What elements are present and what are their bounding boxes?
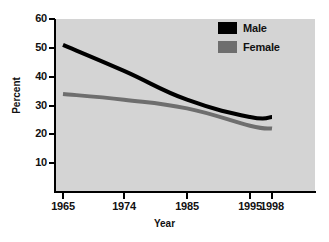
x-tick-mark (271, 193, 273, 199)
series-paths (63, 45, 272, 129)
y-tick-mark (49, 162, 55, 164)
y-tick-mark (49, 47, 55, 49)
x-tick-label: 1974 (102, 200, 146, 212)
legend-item-male: Male (218, 19, 280, 36)
x-tick-label: 1965 (41, 200, 85, 212)
legend-item-female: Female (218, 38, 280, 55)
x-tick-mark (123, 193, 125, 199)
y-tick-mark (49, 76, 55, 78)
y-tick-mark (49, 18, 55, 20)
legend-label: Male (243, 22, 267, 34)
series-line-female (63, 94, 272, 129)
x-axis-line (54, 191, 316, 193)
legend-label: Female (243, 41, 280, 53)
y-tick-label: 50 (7, 42, 47, 53)
x-tick-mark (62, 193, 64, 199)
y-tick-label: 20 (7, 128, 47, 139)
x-tick-mark (249, 193, 251, 199)
y-tick-label: 60 (7, 13, 47, 24)
y-tick-mark (49, 105, 55, 107)
x-axis-title: Year (0, 218, 329, 229)
y-axis-title: Percent (11, 66, 22, 126)
chart-legend: MaleFemale (218, 19, 280, 57)
y-tick-mark (49, 133, 55, 135)
x-tick-mark (186, 193, 188, 199)
x-tick-label: 1998 (250, 200, 294, 212)
x-tick-label: 1985 (165, 200, 209, 212)
line-chart-figure: 605040302010 19651974198519951998 Percen… (0, 0, 329, 242)
legend-swatch-female (218, 41, 237, 53)
legend-swatch-male (218, 22, 237, 34)
y-tick-label: 10 (7, 157, 47, 168)
